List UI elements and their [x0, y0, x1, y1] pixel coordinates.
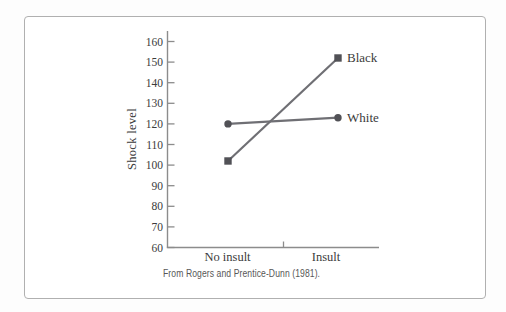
y-tick-label: 70	[152, 221, 164, 233]
y-tick-label: 80	[152, 200, 164, 212]
y-tick-label: 130	[146, 97, 164, 109]
series-label-black: Black	[347, 50, 378, 65]
figure-caption: From Rogers and Prentice-Dunn (1981).	[163, 268, 320, 279]
series-marker-circle-white	[334, 114, 341, 121]
series-line-white	[228, 118, 338, 124]
shock-level-chart: 16015014013012011010090807060No insultIn…	[0, 0, 506, 312]
y-tick-label: 100	[146, 159, 164, 171]
y-tick-label: 140	[146, 77, 164, 89]
series-marker-circle-white	[224, 120, 231, 127]
x-category-label-insult: Insult	[312, 250, 341, 264]
y-tick-label: 150	[146, 56, 164, 68]
series-line-black	[228, 58, 338, 161]
y-tick-label: 160	[146, 36, 164, 48]
x-category-label-no-insult: No insult	[204, 250, 251, 264]
y-axis-title: Shock level	[125, 108, 139, 170]
page: 16015014013012011010090807060No insultIn…	[0, 0, 506, 312]
y-tick-label: 90	[152, 180, 164, 192]
y-tick-label: 60	[152, 242, 164, 254]
y-tick-label: 110	[146, 139, 163, 151]
y-tick-label: 120	[146, 118, 164, 130]
series-marker-square-black	[334, 54, 341, 61]
series-label-white: White	[347, 110, 379, 125]
series-marker-square-black	[224, 157, 231, 164]
